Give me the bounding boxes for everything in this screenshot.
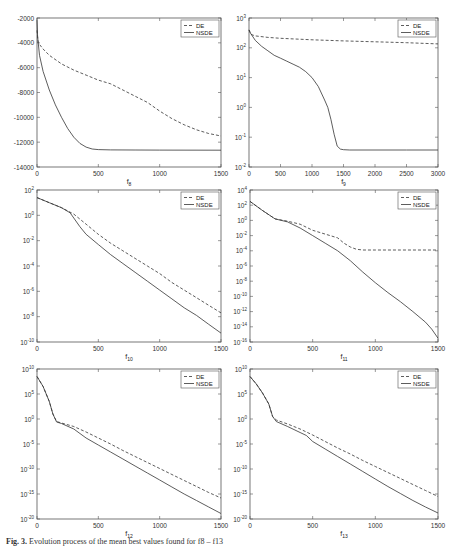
legend-entry-nsde: NSDE [196,202,213,208]
plot-frame [37,369,221,519]
series-nsde [250,377,438,514]
y-tick-label: 10-15 [233,490,247,498]
y-tick-label: 102 [24,186,34,194]
series-de [37,30,221,136]
plot-frame [249,18,438,167]
y-tick-label: 10-10 [233,465,247,473]
figure-canvas: 050010001500-2000-4000-6000-8000-10000-1… [0,0,456,546]
y-tick-label: 102 [236,43,246,51]
y-tick-label: 10-20 [233,515,247,523]
x-tick-label: 0 [35,522,39,529]
x-axis-label: f9 [341,178,346,187]
x-tick-label: 0 [248,522,252,529]
legend: DENSDE [181,371,219,388]
x-tick-label: 1000 [152,170,167,177]
y-tick-label: -12000 [14,139,35,146]
x-tick-label: 500 [93,522,104,529]
y-tick-label: 100 [24,211,34,219]
plot-frame [37,18,221,167]
legend-entry-de: DE [196,23,204,29]
series-nsde [37,198,221,334]
legend-entry-de: DE [413,195,421,201]
y-tick-label: 10-5 [23,440,35,448]
y-tick-label: 10-6 [23,287,35,295]
y-tick-label: 10-12 [233,307,247,315]
legend: DENSDE [181,192,219,209]
y-tick-label: 104 [237,186,247,194]
legend-entry-nsde: NSDE [413,202,430,208]
legend-entry-de: DE [413,23,421,29]
y-tick-label: 10-1 [235,133,247,141]
x-tick-label: 1500 [214,522,229,529]
y-tick-label: 1010 [22,365,35,373]
y-tick-label: 102 [237,201,247,209]
x-tick-label: 500 [307,522,318,529]
legend: DENSDE [398,192,436,209]
legend-entry-nsde: NSDE [413,381,430,387]
y-tick-label: 10-15 [20,490,34,498]
plot-frame [37,190,221,342]
x-tick-label: 0 [35,170,39,177]
y-tick-label: -14000 [14,164,35,171]
x-tick-label: 1000 [152,345,167,352]
x-tick-label: 1500 [214,170,229,177]
legend-entry-de: DE [196,374,204,380]
y-tick-label: 1010 [235,365,248,373]
y-tick-label: 10-6 [236,262,248,270]
legend-entry-nsde: NSDE [196,30,213,36]
chart-f10: 05001000150010210010-210-410-610-810-10f… [20,186,228,363]
x-tick-label: 500 [275,170,286,177]
y-tick-label: 10-5 [236,440,248,448]
figure-caption: Fig. 3. Evolution process of the mean be… [6,537,223,546]
y-tick-label: 10-8 [23,312,35,320]
chart-f11: 05001000150010410210010-210-410-610-810-… [233,186,445,363]
y-tick-label: -2000 [17,15,34,22]
y-tick-label: 10-2 [236,231,248,239]
y-tick-label: -8000 [17,89,34,96]
x-tick-label: 1500 [431,345,446,352]
y-tick-label: -4000 [17,39,34,46]
legend-entry-nsde: NSDE [413,30,430,36]
x-tick-label: 0 [35,345,39,352]
x-tick-label: 1500 [431,522,446,529]
x-axis-label: f10 [125,353,133,362]
y-tick-label: 100 [237,216,247,224]
y-tick-label: 10-10 [233,292,247,300]
legend-entry-de: DE [196,195,204,201]
x-tick-label: 500 [93,345,104,352]
y-tick-label: 105 [24,390,34,398]
y-tick-label: 105 [237,390,247,398]
x-tick-label: 1500 [214,345,229,352]
y-tick-label: 10-4 [236,246,248,254]
chart-f13: 050010001500101010510010-510-1010-1510-2… [233,365,445,540]
y-tick-label: 10-2 [23,236,35,244]
chart-f9: 05001000150020002500300010310210110010-1… [235,14,446,188]
caption-text: Evolution process of the mean best value… [29,537,223,546]
series-de [37,377,221,499]
series-nsde [37,21,221,151]
legend-entry-nsde: NSDE [196,381,213,387]
chart-f8: 050010001500-2000-4000-6000-8000-10000-1… [14,15,229,188]
series-nsde [37,377,221,514]
legend: DENSDE [398,371,436,388]
series-nsde [250,201,438,338]
plot-frame [250,369,438,519]
x-tick-label: 3000 [431,170,446,177]
y-tick-label: 101 [236,73,246,81]
x-tick-label: 500 [93,170,104,177]
series-de [250,377,438,497]
y-tick-label: 10-20 [20,515,34,523]
y-tick-label: -6000 [17,64,34,71]
caption-label: Fig. 3. [6,537,27,546]
y-tick-label: 100 [24,415,34,423]
y-tick-label: 10-10 [20,338,34,346]
x-tick-label: 1000 [368,345,383,352]
x-tick-label: 1500 [336,170,351,177]
x-tick-label: 2000 [368,170,383,177]
x-axis-label: f11 [340,353,347,362]
y-tick-label: -10000 [14,114,35,121]
y-tick-label: 100 [236,103,246,111]
y-tick-label: 10-14 [233,322,247,330]
x-axis-label: f13 [340,530,348,539]
y-tick-label: 103 [236,14,246,22]
